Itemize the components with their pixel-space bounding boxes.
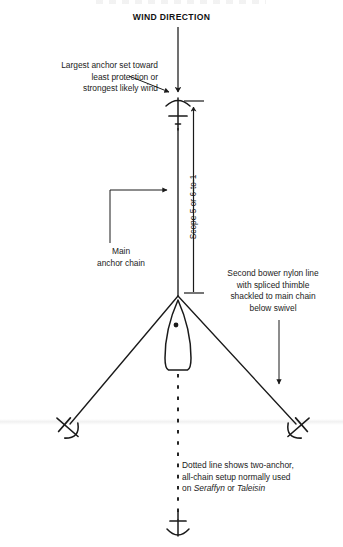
annotation-scope: Scope 5 or 6-to-1 (188, 175, 198, 240)
boat-hull-icon (165, 300, 191, 370)
annotation-dotted-line-joiner: or (225, 483, 237, 493)
mast-dot-icon (174, 323, 179, 328)
annotation-scope-wrapper: Scope 5 or 6-to-1 (186, 148, 200, 266)
starboard-bower-anchor-icon (281, 411, 315, 444)
starboard-bower-rode (178, 296, 296, 424)
main-chain-leader-icon (110, 190, 167, 243)
annotation-second-bower: Second bower nylon line with spliced thi… (205, 268, 341, 314)
stern-anchor-icon (167, 512, 189, 536)
port-bower-anchor-icon (50, 411, 84, 444)
main-anchor-icon (166, 98, 190, 130)
annotation-largest-anchor: Largest anchor set toward least protecti… (6, 60, 158, 95)
annotation-main-anchor-chain: Main anchor chain (78, 246, 164, 269)
annotation-dotted-line: Dotted line shows two-anchor, all-chain … (182, 460, 342, 495)
boat-name-seraffyn: Seraffyn (194, 483, 225, 493)
port-bower-rode (70, 296, 178, 424)
anchoring-diagram-figure: WIND DIRECTION (0, 0, 343, 547)
boat-name-taleisin: Taleisin (237, 483, 265, 493)
